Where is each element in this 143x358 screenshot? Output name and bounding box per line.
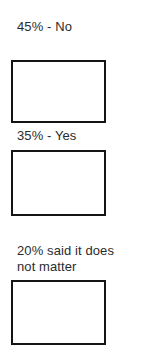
survey-blocks-canvas: 45% - No 35% - Yes 20% said it does not … — [0, 0, 143, 358]
survey-group-box-no[interactable] — [11, 60, 106, 123]
survey-group-box-no-matter[interactable] — [11, 280, 106, 345]
survey-group-label-no-matter: 20% said it does not matter — [17, 243, 114, 275]
survey-group-label-no: 45% - No — [17, 19, 72, 35]
survey-group-box-yes[interactable] — [11, 150, 106, 216]
survey-group-label-yes: 35% - Yes — [17, 128, 76, 144]
